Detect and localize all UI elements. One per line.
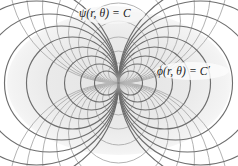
origin-point — [117, 82, 119, 84]
dipole-figure: ψ(r, θ) = C ϕ(r, θ) = C′ — [0, 0, 238, 166]
phi-label: ϕ(r, θ) = C′ — [157, 64, 210, 78]
psi-label: ψ(r, θ) = C — [79, 8, 131, 20]
dipole-diagram-svg — [0, 0, 238, 166]
psi-label-text: ψ(r, θ) = C — [79, 7, 131, 19]
phi-label-prime: ′ — [208, 63, 211, 75]
phi-label-text: ϕ(r, θ) = C — [157, 65, 208, 77]
